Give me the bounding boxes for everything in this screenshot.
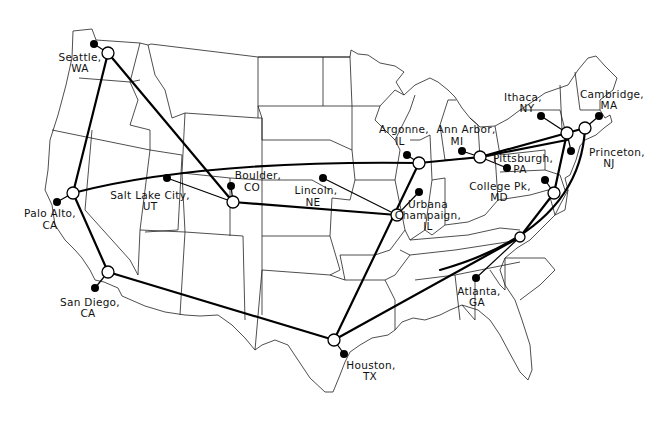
router-seattle: [102, 47, 114, 59]
router-collegepk: [548, 187, 560, 199]
label-collegepk-2: MD: [490, 191, 508, 203]
host-paloalto: [53, 198, 61, 206]
host-lincoln: [319, 174, 327, 182]
label-annarbor-1: Ann Arbor,: [436, 123, 495, 135]
router-argonne: [413, 157, 425, 169]
router-houston: [328, 334, 340, 346]
label-atlanta-2: GA: [469, 296, 485, 308]
label-saltlake-2: UT: [143, 200, 158, 212]
label-princeton-2: NJ: [603, 157, 615, 169]
label-argonne-2: IL: [395, 135, 405, 147]
host-annarbor: [458, 147, 466, 155]
network-map: Seattle, WA Palo Alto, CA San Diego, CA …: [0, 0, 658, 432]
host-collegepk: [541, 176, 549, 184]
host-saltlake: [163, 174, 171, 182]
host-sandiego: [91, 284, 99, 292]
router-cambridge: [579, 122, 591, 134]
site-labels: Seattle, WA Palo Alto, CA San Diego, CA …: [24, 51, 645, 382]
host-houston: [340, 350, 348, 358]
label-seattle-2: WA: [71, 62, 89, 74]
label-annarbor-2: MI: [451, 135, 464, 147]
router-boulder: [227, 196, 239, 208]
label-argonne-1: Argonne,: [379, 123, 429, 135]
label-boulder-1: Boulder,: [235, 169, 281, 181]
host-cambridge: [595, 112, 603, 120]
host-atlanta: [472, 274, 480, 282]
host-seattle: [90, 40, 98, 48]
host-boulder: [227, 182, 235, 190]
label-cambridge-2: MA: [601, 99, 618, 111]
label-houston-2: TX: [362, 370, 377, 382]
router-annarbor: [474, 151, 486, 163]
router-paloalto: [67, 187, 79, 199]
label-paloalto-2: CA: [42, 219, 58, 231]
host-princeton: [567, 147, 575, 155]
label-lincoln-2: NE: [305, 196, 320, 208]
label-lincoln-1: Lincoln,: [295, 184, 338, 196]
label-boulder-2: CO: [244, 181, 260, 193]
host-argonne: [403, 151, 411, 159]
router-newyork: [561, 127, 573, 139]
host-ithaca: [537, 112, 545, 120]
host-pittsburgh: [503, 164, 511, 172]
label-sandiego-2: CA: [80, 307, 96, 319]
host-urbana: [415, 188, 423, 196]
router-sandiego: [102, 266, 114, 278]
label-urbana-3: IL: [423, 220, 433, 232]
router-atlanta: [515, 232, 525, 242]
label-paloalto-1: Palo Alto,: [24, 207, 76, 219]
label-princeton-1: Princeton,: [589, 146, 645, 158]
label-ithaca-2: NY: [520, 102, 535, 114]
label-pittsburgh-2: PA: [513, 163, 527, 175]
